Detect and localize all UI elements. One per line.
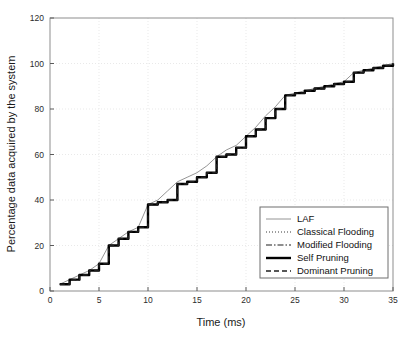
legend-label: Modified Flooding [297,239,372,250]
y-tick-label: 20 [35,241,45,251]
x-tick-label: 20 [241,295,251,305]
y-tick-label: 40 [35,195,45,205]
x-tick-label: 5 [97,295,102,305]
figure-background [0,0,420,337]
legend-label: Self Pruning [297,252,349,263]
chart-legend[interactable]: LAFClassical FloodingModified FloodingSe… [260,207,388,278]
legend-label: Dominant Pruning [297,265,373,276]
legend-label: Classical Flooding [297,226,374,237]
chart-figure: 05101520253035 020406080100120 Time (ms)… [0,0,420,337]
x-tick-label: 35 [388,295,398,305]
y-tick-label: 100 [30,59,44,69]
y-axis-label: Percentage data acquired by the system [5,56,17,253]
x-tick-label: 0 [48,295,53,305]
y-tick-label: 120 [30,13,44,23]
legend-label: LAF [297,213,315,224]
y-tick-label: 60 [35,150,45,160]
x-tick-label: 10 [143,295,153,305]
y-tick-label: 0 [39,286,44,296]
y-tick-label: 80 [35,104,45,114]
x-axis-label: Time (ms) [196,316,245,328]
x-tick-label: 15 [192,295,202,305]
x-tick-label: 25 [290,295,300,305]
x-tick-label: 30 [339,295,349,305]
